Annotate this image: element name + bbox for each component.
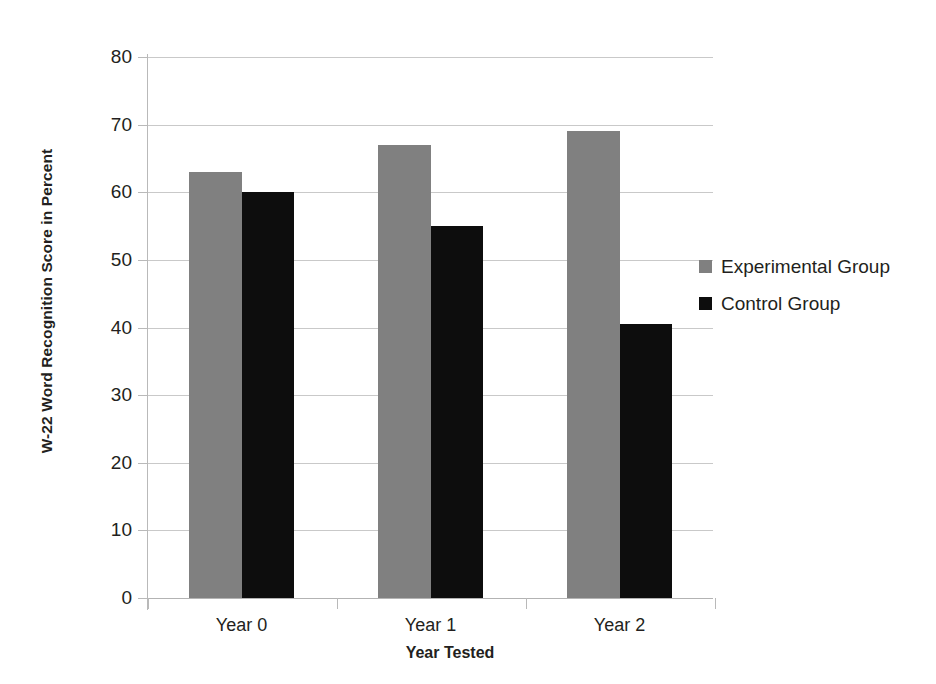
bar <box>189 172 242 598</box>
chart-legend: Experimental GroupControl Group <box>699 248 929 322</box>
x-axis-tick <box>148 598 149 609</box>
y-axis-tick-label: 20 <box>72 453 132 472</box>
y-axis-tick-label: 80 <box>72 47 132 66</box>
y-axis-tick <box>138 125 148 126</box>
legend-swatch-icon <box>699 260 712 273</box>
legend-swatch-icon <box>699 297 712 310</box>
x-axis-tick <box>337 598 338 609</box>
plot-area <box>148 57 713 598</box>
x-axis-category-label: Year 2 <box>540 616 700 634</box>
x-axis-title: Year Tested <box>350 644 550 662</box>
legend-item[interactable]: Control Group <box>699 285 929 322</box>
bar <box>431 226 484 598</box>
y-axis-tick-labels: 01020304050607080 <box>66 0 132 684</box>
y-axis-title: W-22 Word Recognition Score in Percent <box>38 91 56 511</box>
bar <box>242 192 295 598</box>
y-axis-tick-label: 40 <box>72 318 132 337</box>
bar-chart: W-22 Word Recognition Score in Percent 0… <box>0 0 936 684</box>
y-axis-tick <box>138 395 148 396</box>
legend-item[interactable]: Experimental Group <box>699 248 929 285</box>
y-axis-tick <box>138 57 148 58</box>
gridline <box>148 125 713 126</box>
gridline <box>148 57 713 58</box>
bar <box>567 131 620 598</box>
x-axis-tick <box>526 598 527 609</box>
bar <box>378 145 431 598</box>
bar <box>620 324 673 598</box>
y-axis-tick <box>138 260 148 261</box>
y-axis-tick <box>138 328 148 329</box>
y-axis-tick <box>138 463 148 464</box>
x-axis-category-label: Year 1 <box>351 616 511 634</box>
legend-label: Experimental Group <box>721 257 890 276</box>
y-axis-tick-label: 10 <box>72 520 132 539</box>
y-axis-tick-label: 0 <box>72 588 132 607</box>
y-axis-tick-label: 60 <box>72 182 132 201</box>
y-axis-tick <box>138 598 148 599</box>
y-axis-tick-label: 70 <box>72 115 132 134</box>
y-axis-tick-label: 50 <box>72 250 132 269</box>
y-axis-tick <box>138 192 148 193</box>
x-axis-tick <box>715 598 716 609</box>
x-axis-category-label: Year 0 <box>162 616 322 634</box>
y-axis-tick <box>138 530 148 531</box>
gridline <box>148 598 713 599</box>
y-axis-tick-label: 30 <box>72 385 132 404</box>
legend-label: Control Group <box>721 294 840 313</box>
